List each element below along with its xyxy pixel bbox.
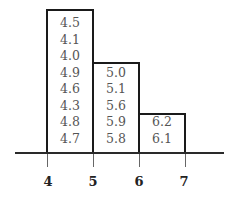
data-value: 6.2 (152, 114, 172, 131)
histogram-bar-6-7: 6.2 6.1 (138, 113, 186, 154)
histogram-bar-4-5: 4.5 4.1 4.0 4.9 4.6 4.3 4.8 4.7 (46, 9, 94, 154)
x-axis-tick (139, 154, 140, 167)
bar-values: 6.2 6.1 (140, 114, 184, 147)
x-tick-label: 6 (129, 174, 149, 189)
x-tick-label: 7 (174, 174, 194, 189)
data-value: 5.6 (106, 98, 126, 115)
data-value: 5.9 (106, 114, 126, 131)
data-value: 4.5 (60, 15, 80, 32)
data-value: 4.9 (60, 65, 80, 82)
data-value: 4.8 (60, 114, 80, 131)
data-value: 4.3 (60, 98, 80, 115)
histogram-chart: 4.5 4.1 4.0 4.9 4.6 4.3 4.8 4.7 5.0 5.1 … (0, 0, 236, 198)
bar-values: 5.0 5.1 5.6 5.9 5.8 (94, 65, 138, 148)
data-value: 4.1 (60, 32, 80, 49)
data-value: 4.6 (60, 81, 80, 98)
x-axis-tick (185, 154, 186, 167)
bar-values: 4.5 4.1 4.0 4.9 4.6 4.3 4.8 4.7 (48, 15, 92, 147)
x-tick-label: 5 (83, 174, 103, 189)
x-axis-tick (47, 154, 48, 167)
data-value: 4.7 (60, 131, 80, 148)
x-tick-label: 4 (38, 174, 58, 189)
x-axis-tick (93, 154, 94, 167)
data-value: 5.1 (106, 81, 126, 98)
data-value: 5.8 (106, 131, 126, 148)
data-value: 5.0 (106, 65, 126, 82)
data-value: 4.0 (60, 48, 80, 65)
data-value: 6.1 (152, 131, 172, 148)
histogram-bar-5-6: 5.0 5.1 5.6 5.9 5.8 (92, 62, 140, 154)
